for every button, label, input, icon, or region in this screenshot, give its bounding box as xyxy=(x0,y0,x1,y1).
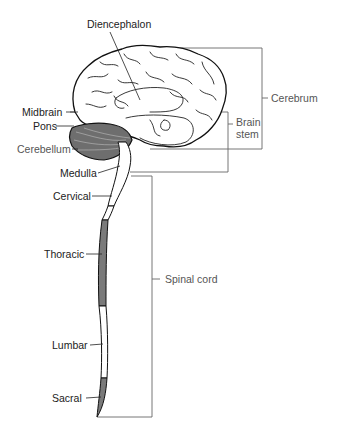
label-cerebrum: Cerebrum xyxy=(271,92,318,104)
label-lumbar: Lumbar xyxy=(52,339,88,351)
label-spinal-cord: Spinal cord xyxy=(165,273,218,285)
label-thoracic: Thoracic xyxy=(44,248,84,260)
cns-diagram: Diencephalon Midbrain Pons Cerebellum Me… xyxy=(0,0,338,425)
label-diencephalon: Diencephalon xyxy=(87,18,151,30)
spinal-cord-shape xyxy=(97,142,131,417)
label-sacral: Sacral xyxy=(52,392,82,404)
label-brain-stem-1: Brain xyxy=(236,116,261,128)
label-medulla: Medulla xyxy=(60,167,97,179)
label-cervical: Cervical xyxy=(53,190,91,202)
label-midbrain: Midbrain xyxy=(22,106,62,118)
label-brain-stem-2: stem xyxy=(236,128,259,140)
label-pons: Pons xyxy=(33,120,57,132)
label-cerebellum: Cerebellum xyxy=(17,143,71,155)
